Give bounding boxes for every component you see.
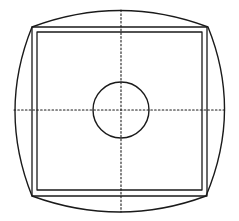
distortion-diagram bbox=[0, 0, 239, 221]
inner-square bbox=[37, 32, 202, 190]
outer-square bbox=[32, 27, 207, 196]
outer-curved-outline bbox=[15, 11, 225, 213]
